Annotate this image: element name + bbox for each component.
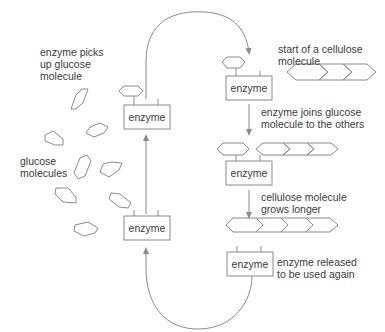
svg-text:enzyme: enzyme [129,111,166,123]
cellulose-joining-chain [256,143,338,155]
glucose-hexagon-icon [71,89,88,109]
svg-text:enzyme: enzyme [231,82,268,94]
held-glucose-hexagon-icon [119,86,143,96]
glucose-hexagon-icon [109,193,131,208]
label-joins: enzyme joins glucose molecule to the oth… [261,106,364,130]
glucose-hexagon-icon [74,155,91,179]
enzyme-box: enzyme [124,216,170,240]
label-grows-longer: cellulose molecule grows longer [261,191,347,215]
cellulose-long-chain [226,218,338,232]
label-picks-up: enzyme picks up glucose molecule [40,46,104,82]
label-glucose-molecules: glucose molecules [20,155,67,179]
enzyme-box: enzyme [226,161,272,185]
label-released: enzyme released to be used again [277,256,357,280]
svg-text:enzyme: enzyme [129,222,166,234]
glucose-hexagon-icon [74,222,98,236]
enzyme-box: enzyme [227,252,273,276]
svg-text:enzyme: enzyme [232,258,269,270]
label-start-cellulose: start of a cellulose molecule [278,43,363,67]
enzyme-box: enzyme [124,105,170,129]
glucose-hexagon-icon [86,123,108,137]
enzyme-box: enzyme [226,76,272,100]
glucose-hexagon-icon [45,131,63,145]
incoming-glucose-hexagon-icon [222,57,245,68]
glucose-hexagon-icon [55,188,76,203]
svg-text:enzyme: enzyme [231,167,268,179]
glucose-hexagon-icon [100,162,122,177]
